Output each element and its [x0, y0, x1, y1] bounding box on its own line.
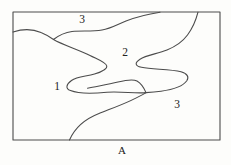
region-map-diagram: 3 2 1 3 A — [0, 0, 231, 165]
region-label-2-center: 2 — [122, 46, 128, 58]
figure-canvas: 3 2 1 3 A — [0, 0, 231, 165]
region-label-1-left: 1 — [54, 80, 60, 92]
figure-caption: A — [118, 144, 126, 156]
region-label-3-bottom: 3 — [174, 98, 180, 110]
region-label-3-top: 3 — [79, 13, 85, 25]
